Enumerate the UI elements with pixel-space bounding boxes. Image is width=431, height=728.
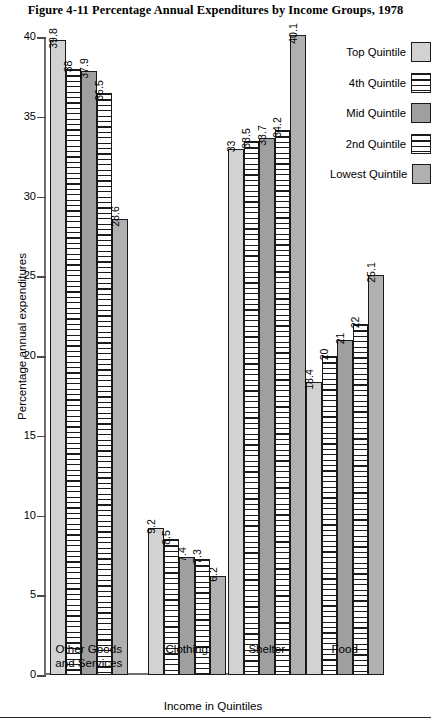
legend-swatch: [411, 42, 431, 62]
y-axis-tick: [37, 276, 46, 278]
bar: 28.6: [112, 219, 128, 675]
bar: 34.2: [275, 130, 291, 675]
y-axis-tick-label: 10: [8, 509, 36, 521]
bar-value-label: 22: [350, 316, 361, 328]
bar-value-label: 21: [334, 332, 345, 344]
bar-value-label: 33: [225, 141, 236, 153]
y-axis-tick-label: 5: [8, 588, 36, 600]
bar-value-label: 36.5: [94, 81, 105, 101]
bar: 33.7: [259, 138, 275, 676]
y-axis-tick: [37, 117, 46, 119]
chart-legend: Top Quintile4th QuintileMid Quintile2nd …: [330, 42, 431, 195]
bar-value-label: 38: [63, 61, 74, 73]
bar: 22: [353, 324, 369, 675]
bar: 25.1: [368, 275, 384, 675]
bar-group: 3333.533.734.240.1: [228, 37, 306, 675]
bar: 40.1: [290, 35, 306, 675]
legend-item: 4th Quintile: [330, 73, 431, 93]
bar-value-label: 6.2: [207, 567, 218, 582]
legend-item-label: 2nd Quintile: [346, 138, 406, 150]
legend-item: 2nd Quintile: [330, 134, 431, 154]
bar-value-label: 33.5: [241, 128, 252, 148]
bar-value-label: 8.5: [161, 530, 172, 545]
y-axis-tick: [37, 516, 46, 518]
bar: 20: [322, 356, 338, 675]
legend-swatch: [411, 73, 431, 93]
x-axis-title: Income in Quintiles: [44, 699, 382, 712]
figure-title: Figure 4-11 Percentage Annual Expenditur…: [0, 3, 431, 18]
legend-item-label: 4th Quintile: [349, 77, 406, 89]
bar: 21: [337, 340, 353, 675]
bar-value-label: 34.2: [272, 117, 283, 137]
y-axis-title: Percentage annual expenditures: [15, 222, 28, 452]
legend-item: Top Quintile: [330, 42, 431, 62]
bar-value-label: 7.4: [176, 548, 187, 563]
y-axis-tick: [37, 595, 46, 597]
bar: 37.9: [81, 71, 97, 676]
legend-swatch: [411, 134, 431, 154]
bar-value-label: 39.8: [47, 28, 58, 48]
bar-value-label: 7.3: [192, 549, 203, 564]
y-axis-tick: [37, 436, 46, 438]
bar-value-label: 37.9: [78, 58, 89, 78]
legend-item-label: Mid Quintile: [346, 107, 406, 119]
bar-value-label: 9.2: [145, 519, 156, 534]
bottom-divider: [0, 717, 431, 718]
bar: 33.5: [244, 141, 260, 675]
legend-swatch: [412, 164, 431, 184]
bar: 38: [66, 69, 82, 675]
bar-value-label: 20: [319, 348, 330, 360]
legend-item-label: Lowest Quintile: [330, 168, 407, 180]
bar-value-label: 25.1: [365, 262, 376, 282]
y-axis-tick-label: 0: [8, 668, 36, 680]
x-axis-category-label: Food: [284, 642, 406, 656]
legend-swatch: [411, 103, 431, 123]
y-axis-tick-label: 30: [8, 190, 36, 202]
y-axis-tick: [37, 356, 46, 358]
bar: 39.8: [50, 40, 66, 675]
bar: 18.4: [306, 382, 322, 675]
bar-value-label: 28.6: [109, 207, 120, 227]
bar-group: 9.28.57.47.36.2: [148, 37, 226, 675]
bar: 6.2: [210, 576, 226, 675]
bar: 36.5: [97, 93, 113, 675]
bar-value-label: 18.4: [303, 369, 314, 389]
legend-item-label: Top Quintile: [346, 46, 406, 58]
bar: 33: [228, 149, 244, 675]
bar: 7.4: [179, 557, 195, 675]
legend-item: Mid Quintile: [330, 103, 431, 123]
y-axis-tick: [37, 675, 46, 677]
legend-item: Lowest Quintile: [330, 164, 431, 184]
bar-group: 39.83837.936.528.6: [50, 37, 128, 675]
y-axis-tick: [37, 37, 46, 39]
y-axis-tick: [37, 197, 46, 199]
bar-value-label: 33.7: [256, 125, 267, 145]
y-axis-tick-label: 35: [8, 110, 36, 122]
y-axis-tick-label: 40: [8, 30, 36, 42]
bar-value-label: 40.1: [287, 23, 298, 43]
